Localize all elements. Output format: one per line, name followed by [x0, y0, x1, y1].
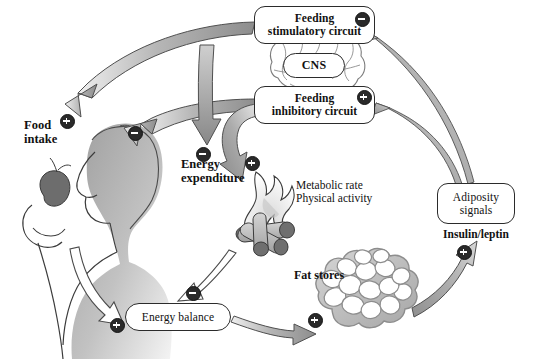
node-cns: CNS: [283, 53, 345, 78]
node-feeding-stimulatory-line2: stimulatory circuit: [268, 25, 361, 37]
node-cns-label: CNS: [302, 59, 326, 72]
label-food-intake-line2: intake: [24, 132, 57, 146]
sign-stim-to-food: [60, 114, 75, 129]
label-insulin-leptin: Insulin/leptin: [430, 228, 522, 241]
label-insulin-leptin-text: Insulin/leptin: [443, 228, 509, 240]
label-food-intake-line1: Food: [24, 118, 51, 132]
label-energy-expenditure: Energy expenditure: [181, 157, 253, 186]
label-energy-expenditure-line2: expenditure: [181, 171, 245, 185]
label-metabolic-and-activity: Metabolic rate Physical activity: [296, 179, 414, 205]
node-feeding-stimulatory-text: Feeding stimulatory circuit: [268, 12, 361, 38]
label-metabolic-rate: Metabolic rate: [296, 179, 363, 191]
sign-fat-to-adiposity: [457, 245, 472, 260]
label-physical-activity: Physical activity: [296, 192, 372, 204]
sign-stim-to-expenditure: [196, 147, 211, 162]
arrow-adiposity-to-inhibitory: [372, 103, 462, 185]
label-fat-stores: Fat stores: [294, 269, 370, 283]
arrow-energy-balance-to-fat-stores: [231, 316, 316, 345]
label-food-intake: Food intake: [24, 118, 86, 147]
adipocytes-illustration: [316, 248, 418, 327]
node-adiposity-line2: signals: [460, 204, 493, 216]
sign-food-to-balance: [110, 318, 125, 333]
node-adiposity-signals: Adiposity signals: [437, 183, 515, 224]
node-adiposity-text: Adiposity signals: [453, 191, 499, 217]
node-adiposity-line1: Adiposity: [453, 191, 499, 203]
node-feeding-inhibitory-line1: Feeding: [295, 92, 335, 104]
diagram-canvas: [0, 0, 533, 359]
sign-adiposity-to-stim: [355, 12, 370, 27]
sign-adiposity-to-inhib: [357, 90, 372, 105]
node-feeding-inhibitory-circuit: Feeding inhibitory circuit: [254, 86, 375, 124]
sign-inhib-to-food: [128, 126, 143, 141]
energy-homeostasis-diagram: Feeding stimulatory circuit CNS Feeding …: [0, 0, 533, 359]
sign-inhib-to-expenditure: [245, 156, 260, 171]
label-fat-stores-text: Fat stores: [294, 268, 344, 282]
node-feeding-inhibitory-line2: inhibitory circuit: [272, 105, 358, 117]
arrow-stimulatory-to-energy-expenditure: [192, 45, 221, 145]
node-energy-balance-label: Energy balance: [142, 311, 214, 324]
sign-expenditure-to-balance: [186, 286, 201, 301]
sign-balance-to-fat: [308, 313, 323, 328]
node-feeding-inhibitory-text: Feeding inhibitory circuit: [272, 92, 358, 118]
node-feeding-stimulatory-line1: Feeding: [295, 12, 335, 24]
node-energy-balance: Energy balance: [125, 303, 231, 331]
